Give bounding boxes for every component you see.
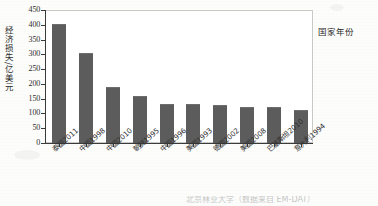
- y-axis-tick: [41, 54, 45, 55]
- y-axis-tick: [41, 69, 45, 70]
- y-axis-tick: [41, 84, 45, 85]
- x-axis-category-label: 中国1996: [159, 127, 188, 154]
- figure-caption-text: 北京林业大学（数据来自 EM-DAT）: [186, 196, 315, 204]
- x-axis-tick: [86, 143, 87, 147]
- x-axis-category-label: 泰国2011: [51, 127, 80, 154]
- x-axis-category-label: 中国2010: [105, 127, 134, 154]
- figure-caption: 北京林业大学（数据来自 EM-DAT）: [0, 196, 378, 206]
- x-axis-tick: [274, 143, 275, 147]
- x-axis-category-label: 美国2008: [239, 127, 268, 154]
- x-axis-tick: [301, 143, 302, 147]
- y-axis-tick: [41, 40, 45, 41]
- y-axis-tick: [41, 25, 45, 26]
- y-axis-tick: [41, 99, 45, 100]
- y-axis-tick: [41, 10, 45, 11]
- x-axis-tick: [247, 143, 248, 147]
- x-axis-title: 国家年份: [318, 28, 354, 37]
- y-axis-tick: [41, 113, 45, 114]
- x-axis-tick: [167, 143, 168, 147]
- x-axis-category-label: 德国2002: [212, 127, 241, 154]
- y-axis-tick: [41, 128, 45, 129]
- x-axis-category-label: 美国1993: [185, 127, 214, 154]
- x-axis-tick: [220, 143, 221, 147]
- x-axis-tick: [140, 143, 141, 147]
- x-axis-tick: [193, 143, 194, 147]
- x-axis-tick: [59, 143, 60, 147]
- x-axis-tick: [113, 143, 114, 147]
- bar-chart-figure: 经济损失/亿美元 050100150200250300350400450 泰国2…: [0, 0, 378, 206]
- x-axis-category-label: 朝鲜1995: [132, 127, 161, 154]
- x-axis-category-label: 中国1998: [78, 127, 107, 154]
- y-axis-tick: [41, 143, 45, 144]
